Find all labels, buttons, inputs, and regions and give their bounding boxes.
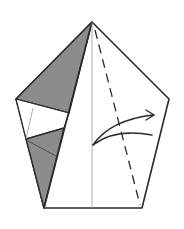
origami-diagram: [0, 0, 184, 229]
